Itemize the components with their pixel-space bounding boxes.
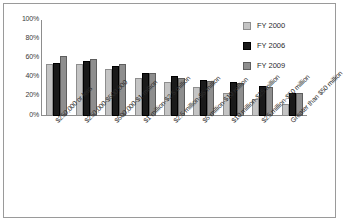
y-axis-tick-labels: 100%80%60%40%20%0% (9, 18, 39, 116)
x-axis-tick-labels: $250,000 or less$250,000-$500,000$500,00… (4, 117, 337, 217)
y-axis-tick: 40% (9, 72, 39, 79)
legend-swatch-icon (243, 62, 251, 70)
legend-item: FY 2000 (243, 18, 321, 34)
y-axis-tick: 80% (9, 34, 39, 41)
chart-legend: FY 2000FY 2006FY 2009 (243, 18, 321, 78)
legend-label: FY 2006 (257, 42, 285, 50)
legend-label: FY 2009 (257, 62, 285, 70)
legend-item: FY 2009 (243, 58, 321, 74)
chart-frame: 100%80%60%40%20%0% $250,000 or less$250,… (3, 3, 336, 218)
y-axis-tick: 100% (9, 15, 39, 22)
legend-item: FY 2006 (243, 38, 321, 54)
legend-label: FY 2000 (257, 22, 285, 30)
legend-swatch-icon (243, 42, 251, 50)
y-axis-tick: 20% (9, 91, 39, 98)
legend-swatch-icon (243, 22, 251, 30)
bar (282, 104, 289, 116)
bar (46, 64, 53, 116)
bar-group (46, 20, 67, 116)
bar (53, 63, 60, 116)
y-axis-tick: 60% (9, 53, 39, 60)
chart-plot-wrapper: 100%80%60%40%20%0% $250,000 or less$250,… (4, 4, 335, 217)
